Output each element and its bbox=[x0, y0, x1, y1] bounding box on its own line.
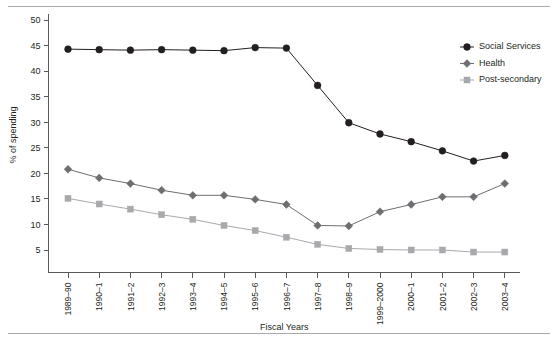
y-tick-label: 15 bbox=[30, 194, 40, 204]
data-point-post-secondary-12 bbox=[439, 247, 445, 253]
x-tick-label: 2003–4 bbox=[500, 282, 510, 311]
legend-marker-diamond-icon bbox=[463, 60, 471, 68]
y-tick-label: 20 bbox=[30, 169, 40, 179]
y-tick-label: 45 bbox=[30, 41, 40, 51]
data-point-post-secondary-1 bbox=[96, 201, 102, 207]
legend-label-social-services: Social Services bbox=[479, 41, 541, 51]
y-tick-label: 35 bbox=[30, 92, 40, 102]
data-point-social-services-2 bbox=[127, 47, 134, 54]
legend-marker-circle-icon bbox=[464, 44, 471, 51]
data-point-health-8 bbox=[314, 222, 322, 230]
data-point-post-secondary-4 bbox=[190, 216, 196, 222]
data-point-post-secondary-6 bbox=[252, 228, 258, 234]
data-point-social-services-4 bbox=[189, 47, 196, 54]
data-point-social-services-14 bbox=[501, 152, 508, 159]
chart-axes bbox=[49, 14, 521, 273]
data-point-social-services-12 bbox=[439, 147, 446, 154]
y-tick-label: 30 bbox=[30, 118, 40, 128]
data-point-post-secondary-11 bbox=[408, 247, 414, 253]
data-point-post-secondary-7 bbox=[283, 234, 289, 240]
y-tick-label: 25 bbox=[30, 143, 40, 153]
x-tick-label: 1990–1 bbox=[94, 282, 104, 311]
x-tick-label: 1999–2000 bbox=[375, 282, 385, 325]
data-point-health-6 bbox=[251, 196, 259, 204]
data-point-health-9 bbox=[345, 222, 353, 230]
data-point-social-services-5 bbox=[221, 47, 228, 54]
y-tick-label: 40 bbox=[30, 66, 40, 76]
data-point-social-services-9 bbox=[345, 119, 352, 126]
data-point-social-services-13 bbox=[470, 158, 477, 165]
data-point-post-secondary-8 bbox=[315, 241, 321, 247]
data-point-health-13 bbox=[470, 193, 478, 201]
y-axis-title: % of spending bbox=[8, 106, 18, 163]
x-tick-label: 1997–8 bbox=[313, 282, 323, 311]
x-tick-label: 2001–2 bbox=[438, 282, 448, 311]
data-point-post-secondary-3 bbox=[159, 212, 165, 218]
data-point-health-4 bbox=[189, 191, 197, 199]
x-tick-label: 2000–1 bbox=[406, 282, 416, 311]
x-tick-label: 1995–6 bbox=[250, 282, 260, 311]
line-chart-plot: 5101520253035404550% of spending1989–901… bbox=[0, 0, 558, 342]
legend-label-post-secondary: Post-secondary bbox=[479, 74, 542, 84]
x-tick-label: 1998–9 bbox=[344, 282, 354, 311]
data-point-health-2 bbox=[127, 180, 135, 188]
x-tick-label: 1989–90 bbox=[63, 282, 73, 315]
data-point-social-services-10 bbox=[377, 131, 384, 138]
data-point-post-secondary-14 bbox=[502, 249, 508, 255]
data-point-health-1 bbox=[95, 174, 103, 182]
x-axis-title: Fiscal Years bbox=[260, 322, 309, 332]
data-point-health-5 bbox=[220, 191, 228, 199]
data-point-social-services-3 bbox=[158, 46, 165, 53]
chart-figure: 5101520253035404550% of spending1989–901… bbox=[0, 0, 558, 342]
data-point-social-services-8 bbox=[314, 82, 321, 89]
data-point-social-services-6 bbox=[252, 44, 259, 51]
data-point-health-10 bbox=[376, 208, 384, 216]
x-tick-label: 1992–3 bbox=[157, 282, 167, 311]
data-point-post-secondary-5 bbox=[221, 222, 227, 228]
data-point-social-services-7 bbox=[283, 45, 290, 52]
data-point-health-3 bbox=[158, 186, 166, 194]
data-point-health-0 bbox=[64, 165, 72, 173]
y-tick-label: 50 bbox=[30, 15, 40, 25]
x-tick-label: 1994–5 bbox=[219, 282, 229, 311]
series-line-social-services bbox=[68, 48, 505, 161]
legend-label-health: Health bbox=[479, 58, 505, 68]
data-point-health-11 bbox=[407, 201, 415, 209]
data-point-social-services-0 bbox=[65, 46, 72, 53]
data-point-health-7 bbox=[283, 201, 291, 209]
data-point-health-14 bbox=[501, 180, 509, 188]
data-point-social-services-1 bbox=[96, 46, 103, 53]
data-point-post-secondary-10 bbox=[377, 246, 383, 252]
data-point-health-12 bbox=[439, 193, 447, 201]
data-point-post-secondary-2 bbox=[127, 206, 133, 212]
y-tick-label: 10 bbox=[30, 220, 40, 230]
data-point-post-secondary-13 bbox=[471, 249, 477, 255]
data-point-post-secondary-0 bbox=[65, 195, 71, 201]
legend-marker-square-icon bbox=[464, 77, 470, 83]
x-tick-label: 2002–3 bbox=[469, 282, 479, 311]
x-tick-label: 1996–7 bbox=[282, 282, 292, 311]
y-tick-label: 5 bbox=[35, 245, 40, 255]
x-tick-label: 1991–2 bbox=[126, 282, 136, 311]
data-point-social-services-11 bbox=[408, 138, 415, 145]
data-point-post-secondary-9 bbox=[346, 245, 352, 251]
x-tick-label: 1993–4 bbox=[188, 282, 198, 311]
